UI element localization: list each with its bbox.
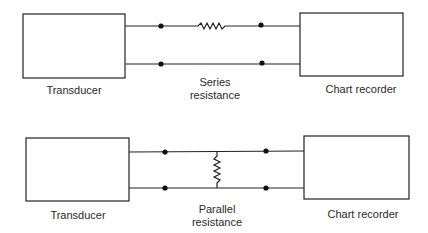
terminal-dot [162,149,167,154]
chart-recorder-box [304,136,409,199]
top-wire [129,151,304,152]
chart-recorder-label: Chart recorder [326,83,397,95]
terminal-dot [263,148,268,153]
terminal-dot [158,61,163,66]
transducer-box [23,14,125,78]
series-circuit: Transducer Series resistance Chart recor… [23,13,403,101]
terminal-dot [258,22,263,27]
parallel-resistor-icon [214,152,220,188]
terminal-dot [158,23,163,28]
transducer-box [26,138,129,201]
transducer-label: Transducer [50,209,106,221]
chart-recorder-box [300,13,403,76]
series-resistor-icon [125,23,300,29]
series-label-line1: Series [199,76,231,88]
parallel-label-line2: resistance [192,216,242,228]
transducer-label: Transducer [46,84,102,96]
terminal-dot [162,185,167,190]
terminal-dot [263,185,268,190]
chart-recorder-label: Chart recorder [328,208,399,220]
terminal-dot [259,60,264,65]
parallel-circuit: Transducer Parallel resistance Chart rec… [26,136,409,228]
series-label-line2: resistance [190,89,240,101]
parallel-label-line1: Parallel [199,203,236,215]
resistance-diagram: Transducer Series resistance Chart recor… [0,0,428,233]
